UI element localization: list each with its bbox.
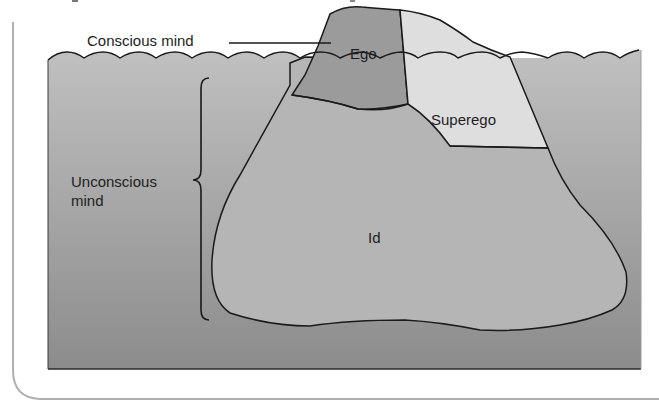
id-label: Id xyxy=(368,229,381,246)
iceberg-diagram-svg: Conscious mind Ego Superego Id Unconscio… xyxy=(0,0,659,401)
iceberg-diagram-figure: Conscious mind Ego Superego Id Unconscio… xyxy=(0,0,659,401)
unconscious-mind-label-line1: Unconscious xyxy=(71,173,157,190)
cut-off-caption-remnant xyxy=(72,0,355,2)
ego-label: Ego xyxy=(350,45,377,62)
superego-label: Superego xyxy=(431,111,496,128)
unconscious-mind-label-line2: mind xyxy=(71,192,104,209)
conscious-mind-label: Conscious mind xyxy=(87,32,194,49)
